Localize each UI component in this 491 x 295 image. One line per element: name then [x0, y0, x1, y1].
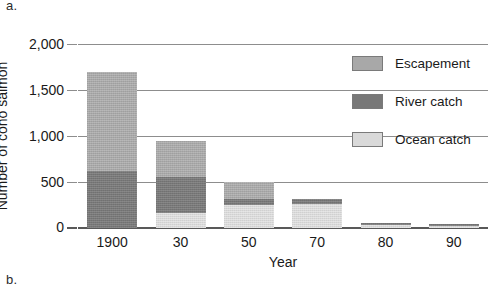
bar-segment-1900-escapement — [87, 72, 137, 171]
bar-segment-80-ocean-catch — [361, 225, 411, 228]
x-axis-title: Year — [78, 254, 488, 270]
legend-label-river-catch: River catch — [395, 94, 463, 109]
y-tick-label-500: 500 — [41, 174, 64, 190]
y-tick-500 — [67, 182, 77, 183]
chart-legend: EscapementRiver catchOcean catch — [352, 44, 488, 158]
bar-segment-1900-river-catch — [87, 171, 137, 228]
bar-segment-80-river-catch — [361, 223, 411, 225]
gridline-500: 500 — [78, 182, 488, 183]
legend-item-ocean-catch[interactable]: Ocean catch — [352, 120, 488, 158]
y-tick-1500 — [67, 90, 77, 91]
bar-segment-30-ocean-catch — [156, 213, 206, 228]
y-tick-label-2000: 2,000 — [29, 36, 64, 52]
x-tick-label-50: 50 — [241, 234, 257, 250]
y-tick-label-1500: 1,500 — [29, 82, 64, 98]
gridline-0: 0 — [78, 227, 488, 229]
legend-label-escapement: Escapement — [395, 56, 470, 71]
bar-90[interactable] — [429, 224, 479, 228]
y-tick-1000 — [67, 136, 77, 137]
river-catch-swatch — [352, 94, 383, 109]
y-tick-2000 — [67, 44, 77, 45]
x-tick-label-70: 70 — [309, 234, 325, 250]
legend-label-ocean-catch: Ocean catch — [395, 132, 471, 147]
x-tick-label-1900: 1900 — [97, 234, 128, 250]
x-tick-label-80: 80 — [378, 234, 394, 250]
bar-30[interactable] — [156, 141, 206, 228]
bar-segment-90-ocean-catch — [429, 226, 479, 228]
bar-segment-70-ocean-catch — [292, 204, 342, 228]
bar-50[interactable] — [224, 182, 274, 228]
bar-segment-30-river-catch — [156, 177, 206, 212]
y-tick-label-0: 0 — [56, 219, 64, 235]
bar-segment-30-escapement — [156, 141, 206, 177]
bar-70[interactable] — [292, 199, 342, 228]
y-tick-label-1000: 1,000 — [29, 128, 64, 144]
bar-segment-90-river-catch — [429, 224, 479, 226]
bar-80[interactable] — [361, 223, 411, 228]
coho-salmon-chart: Number of coho salmon Year 05001,0001,50… — [0, 18, 491, 268]
legend-item-river-catch[interactable]: River catch — [352, 82, 488, 120]
bar-segment-50-escapement — [224, 182, 274, 199]
y-tick-0 — [67, 227, 77, 229]
x-tick-label-30: 30 — [173, 234, 189, 250]
panel-letter-b: b. — [6, 272, 17, 287]
legend-item-escapement[interactable]: Escapement — [352, 44, 488, 82]
x-tick-label-90: 90 — [446, 234, 462, 250]
panel-letter-a: a. — [6, 0, 17, 13]
escapement-swatch — [352, 56, 383, 71]
ocean-catch-swatch — [352, 132, 383, 147]
bar-segment-50-river-catch — [224, 199, 274, 205]
bar-segment-70-river-catch — [292, 199, 342, 204]
bar-1900[interactable] — [87, 72, 137, 228]
y-axis-title: Number of coho salmon — [0, 44, 12, 228]
bar-segment-50-ocean-catch — [224, 205, 274, 228]
